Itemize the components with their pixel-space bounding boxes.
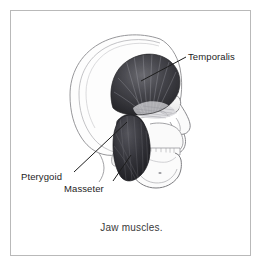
label-masseter: Masseter [64,183,104,194]
muscle-masseter [113,115,150,181]
figure-caption: Jaw muscles. [0,222,263,233]
figure-root: Temporalis Pterygoid Masseter Jaw muscle… [0,0,263,268]
label-pterygoid: Pterygoid [21,171,62,182]
label-temporalis: Temporalis [188,51,235,62]
